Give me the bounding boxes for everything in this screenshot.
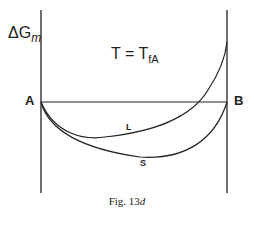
solid-curve-label: S (140, 158, 146, 168)
solid-curve (41, 102, 227, 157)
point-a-label: A (25, 93, 34, 108)
figure-caption: Fig. 13d (0, 195, 254, 207)
y-axis-label: ΔGm (8, 24, 41, 45)
temperature-condition: T = TfA (111, 45, 159, 65)
point-b-label: B (234, 93, 243, 108)
liquid-curve-label: L (126, 122, 132, 132)
